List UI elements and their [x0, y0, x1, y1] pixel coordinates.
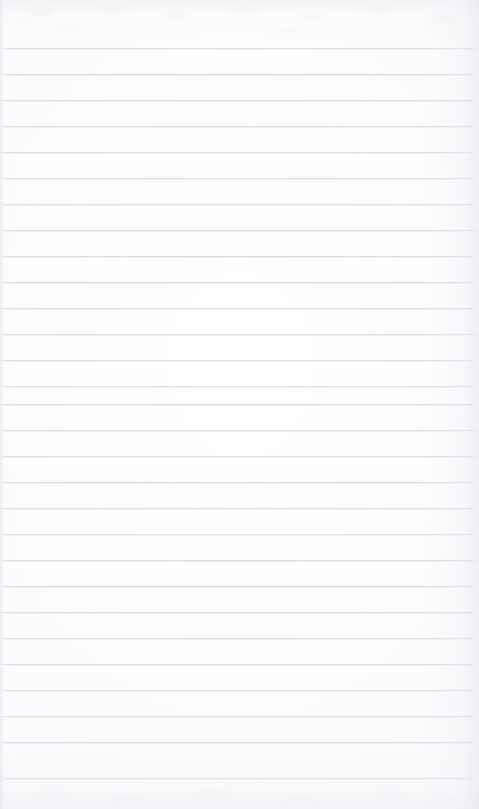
ruled-line [2, 690, 473, 691]
ruled-line [2, 456, 473, 457]
ruled-line [2, 560, 473, 561]
ruled-line [2, 204, 473, 205]
ruled-line [2, 742, 473, 743]
ruled-line-layer [0, 0, 479, 809]
ruled-line [2, 586, 473, 587]
ruled-line [2, 482, 473, 483]
ruled-line [2, 178, 473, 179]
ruled-line [2, 152, 473, 153]
ruled-line [2, 612, 473, 613]
ruled-line [2, 386, 473, 387]
ruled-line [2, 404, 473, 405]
ruled-line [2, 430, 473, 431]
ruled-line [2, 716, 473, 717]
ruled-line [2, 664, 473, 665]
ruled-line [2, 48, 473, 49]
ruled-line [2, 256, 473, 257]
ruled-line [2, 74, 473, 75]
ruled-line [2, 308, 473, 309]
ruled-line [2, 534, 473, 535]
ruled-line [2, 282, 473, 283]
ruled-line [2, 508, 473, 509]
ruled-line [2, 126, 473, 127]
ruled-line [2, 334, 473, 335]
ruled-line [2, 230, 473, 231]
ruled-line [2, 100, 473, 101]
ruled-line [2, 638, 473, 639]
scanned-page [0, 0, 479, 809]
ruled-line [2, 360, 473, 361]
ruled-line [2, 778, 473, 779]
